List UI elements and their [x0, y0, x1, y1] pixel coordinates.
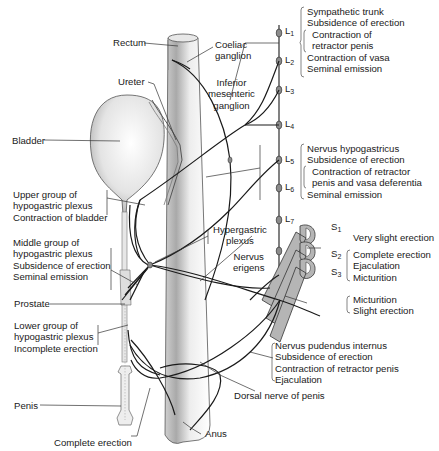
- segment-L7: L7: [285, 214, 294, 227]
- label-complete-erection: Complete erection: [54, 437, 132, 448]
- label-lower-group-hypogastric-plexus: Lower group ofhypogastric plexusIncomple…: [14, 320, 98, 354]
- segment-S2: S2: [331, 249, 341, 262]
- label-nervus-pudendus-internus: Nervus pudendus internusSubsidence of er…: [275, 340, 399, 386]
- label-penis: Penis: [14, 400, 38, 411]
- label-rectum: Rectum: [113, 37, 146, 48]
- label-upper-group-hypogastric-plexus: Upper group ofhypogastric plexusContract…: [13, 189, 107, 223]
- segment-L6: L6: [285, 182, 294, 195]
- label-middle-group-hypogastric-plexus: Middle group ofhypogastric plexusSubside…: [13, 237, 111, 283]
- label-ureter: Ureter: [118, 76, 145, 87]
- label-very-slight-erection: Very slight erection: [353, 232, 434, 243]
- label-prostate: Prostate: [14, 298, 50, 309]
- label-bladder: Bladder: [12, 135, 45, 146]
- label-coeliac-ganglion: Coeliacganglion: [215, 39, 251, 62]
- label-micturition-slight-erection: MicturitionSlight erection: [353, 294, 414, 317]
- segment-L1: L1: [285, 26, 294, 39]
- label-nervus-hypogastricus: Nervus hypogastricus Subsidence of erect…: [307, 143, 422, 200]
- segment-L5: L5: [285, 154, 294, 167]
- rectum: [165, 34, 210, 443]
- segment-S1: S1: [331, 222, 341, 235]
- label-inferior-mesenteric-ganglion: Inferiormesentericganglion: [208, 77, 255, 111]
- label-nervus-erigens: Nervuserigens: [233, 251, 264, 274]
- segment-S3: S3: [331, 267, 341, 280]
- pelvic-innervation-diagram: Rectum Coeliacganglion Ureter Inferiorme…: [0, 0, 439, 451]
- segment-L2: L2: [285, 55, 294, 68]
- label-sympathetic-trunk: Sympathetic trunk Subsidence of erection…: [307, 6, 405, 74]
- sacral-segments: [262, 225, 315, 342]
- label-hypergastric-plexus: Hypergastricplexus: [213, 224, 267, 247]
- segment-L3: L3: [285, 84, 294, 97]
- label-anus: Anus: [205, 428, 227, 439]
- label-s2-s3-effects: Complete erectionEjaculationMicturition: [353, 249, 431, 283]
- label-dorsal-nerve-of-penis: Dorsal nerve of penis: [234, 390, 325, 401]
- bladder: [90, 95, 164, 362]
- segment-L4: L4: [285, 119, 294, 132]
